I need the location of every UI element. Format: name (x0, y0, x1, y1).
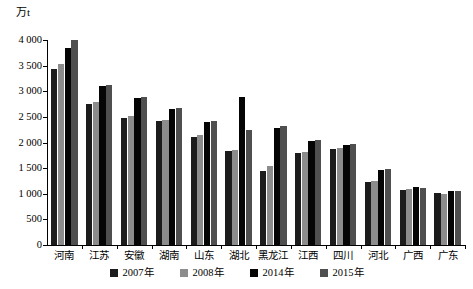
bar (225, 151, 231, 245)
legend-label: 2014年 (263, 266, 294, 279)
y-axis-tick-label: 2 500 (18, 110, 42, 123)
bar (434, 193, 440, 245)
bar (448, 191, 454, 245)
legend-swatch-icon (180, 269, 188, 277)
bar (308, 141, 314, 245)
x-axis-tick-mark (430, 245, 431, 249)
bar (176, 108, 182, 245)
bar (420, 188, 426, 245)
bar (280, 126, 286, 245)
bar (330, 149, 336, 245)
bar (232, 150, 238, 245)
bar-group: 广东 (430, 40, 465, 245)
y-axis-tick-label: 2 000 (18, 136, 42, 149)
x-axis-tick-mark (82, 245, 83, 249)
bar (400, 190, 406, 245)
bar (86, 104, 92, 245)
x-axis-category-label: 山东 (194, 249, 214, 262)
bar (246, 130, 252, 245)
y-axis-tick-label: 1 000 (18, 187, 42, 200)
bar-group: 河南 (47, 40, 82, 245)
bar (121, 118, 127, 245)
legend-swatch-icon (250, 269, 258, 277)
bar (141, 97, 147, 245)
bar (162, 120, 168, 245)
x-axis-category-label: 湖南 (159, 249, 179, 262)
legend-label: 2015年 (333, 266, 364, 279)
x-axis-category-label: 黑龙江 (258, 249, 288, 262)
legend-swatch-icon (320, 269, 328, 277)
legend-swatch-icon (110, 269, 118, 277)
x-axis-tick-mark (361, 245, 362, 249)
x-axis-tick-mark (291, 245, 292, 249)
x-axis-tick-mark (326, 245, 327, 249)
bar-group: 黑龙江 (256, 40, 291, 245)
y-axis-unit-label: 万t (16, 6, 30, 19)
bar (156, 121, 162, 245)
bar (65, 48, 71, 245)
x-axis-category-label: 湖北 (229, 249, 249, 262)
bar (371, 181, 377, 245)
x-axis-category-label: 广东 (438, 249, 458, 262)
bar (455, 191, 461, 245)
bar (441, 194, 447, 245)
bar-chart: 万t 05001 0001 5002 0002 5003 0003 5004 0… (0, 0, 473, 289)
bar-group: 河北 (361, 40, 396, 245)
x-axis-category-label: 四川 (333, 249, 353, 262)
bar (315, 140, 321, 245)
y-axis-tick-mark (43, 245, 48, 246)
bar (260, 171, 266, 245)
bar (365, 182, 371, 245)
bar (58, 64, 64, 245)
bar (169, 109, 175, 245)
bar (197, 135, 203, 245)
bar (239, 97, 245, 245)
bar (128, 116, 134, 245)
legend-label: 2007年 (123, 266, 154, 279)
legend-label: 2008年 (193, 266, 224, 279)
plot-area: 05001 0001 5002 0002 5003 0003 5004 000 … (47, 40, 465, 245)
x-axis-tick-mark (186, 245, 187, 249)
y-axis-tick-label: 500 (26, 212, 42, 225)
bar (106, 85, 112, 245)
bar (337, 148, 343, 245)
bar (191, 137, 197, 245)
y-axis-tick-label: 1 500 (18, 161, 42, 174)
bar (274, 128, 280, 245)
bar-group: 四川 (326, 40, 361, 245)
legend-item[interactable]: 2008年 (180, 266, 224, 279)
bar-group: 江苏 (82, 40, 117, 245)
bar-group: 安徽 (117, 40, 152, 245)
x-axis-category-label: 河北 (368, 249, 388, 262)
bar (51, 69, 57, 245)
bar-group: 广西 (395, 40, 430, 245)
bar (378, 170, 384, 245)
x-axis-category-label: 安徽 (124, 249, 144, 262)
x-axis-category-label: 江西 (298, 249, 318, 262)
y-axis-tick-label: 4 000 (18, 33, 42, 46)
x-axis-category-label: 河南 (54, 249, 74, 262)
bar-group: 江西 (291, 40, 326, 245)
bar (350, 144, 356, 245)
x-axis-tick-mark (465, 245, 466, 249)
bar (413, 187, 419, 245)
x-axis-tick-mark (395, 245, 396, 249)
legend-item[interactable]: 2007年 (110, 266, 154, 279)
bar (211, 121, 217, 245)
bar-group: 湖北 (221, 40, 256, 245)
x-axis-tick-mark (256, 245, 257, 249)
legend-item[interactable]: 2014年 (250, 266, 294, 279)
bar (343, 145, 349, 245)
x-axis-tick-mark (152, 245, 153, 249)
bar (134, 98, 140, 245)
bar (71, 40, 77, 246)
bar (204, 122, 210, 245)
legend-item[interactable]: 2015年 (320, 266, 364, 279)
bar (385, 169, 391, 245)
bar (267, 166, 273, 245)
bar-group: 湖南 (152, 40, 187, 245)
bar (99, 86, 105, 245)
x-axis-category-label: 江苏 (89, 249, 109, 262)
y-axis-tick-label: 3 500 (18, 59, 42, 72)
y-axis-tick-label: 3 000 (18, 84, 42, 97)
